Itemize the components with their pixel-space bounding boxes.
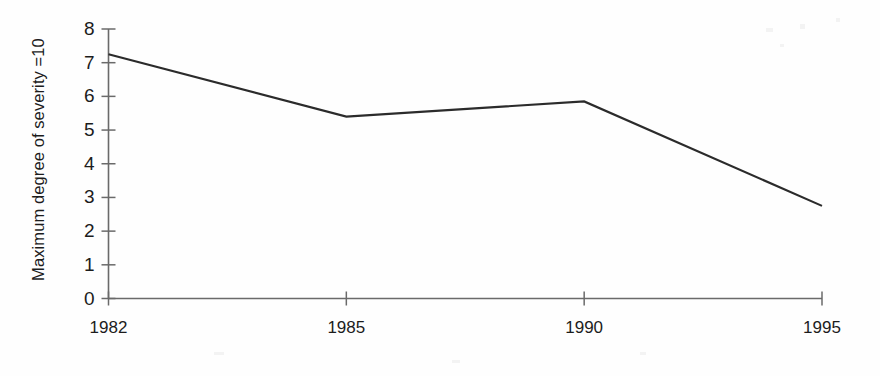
line-chart: Maximum degree of severity =10 012345678… (0, 0, 880, 376)
data-series-line (109, 54, 823, 206)
plot-area (0, 0, 880, 376)
